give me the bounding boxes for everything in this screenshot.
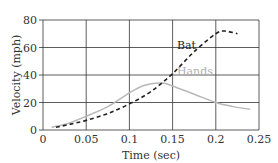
series-line-bat <box>56 31 237 127</box>
y-tick-label: 40 <box>23 69 37 82</box>
y-axis-ticks: 020406080 <box>23 14 37 137</box>
grid <box>39 20 259 130</box>
x-tick-label: 0 <box>40 133 47 146</box>
x-axis-label: Time (sec) <box>122 149 180 162</box>
y-tick-label: 60 <box>23 42 37 55</box>
y-tick-label: 0 <box>30 124 37 137</box>
series-labels: BatHands <box>177 39 213 78</box>
y-tick-label: 20 <box>23 97 37 110</box>
x-tick-label: 0.1 <box>121 133 139 146</box>
x-tick-label: 0.15 <box>160 133 185 146</box>
x-tick-label: 0.2 <box>207 133 225 146</box>
x-tick-label: 0.05 <box>74 133 99 146</box>
series-label-bat: Bat <box>177 39 197 52</box>
y-tick-label: 80 <box>23 14 37 27</box>
series-group <box>52 31 251 127</box>
series-line-hands <box>52 83 251 127</box>
velocity-chart: 00.050.10.150.20.25 020406080 BatHands T… <box>0 0 278 163</box>
x-tick-label: 0.25 <box>247 133 272 146</box>
y-axis-label: Velocity (mph) <box>10 35 23 117</box>
series-label-hands: Hands <box>177 65 213 78</box>
x-axis-ticks: 00.050.10.150.20.25 <box>40 133 272 146</box>
